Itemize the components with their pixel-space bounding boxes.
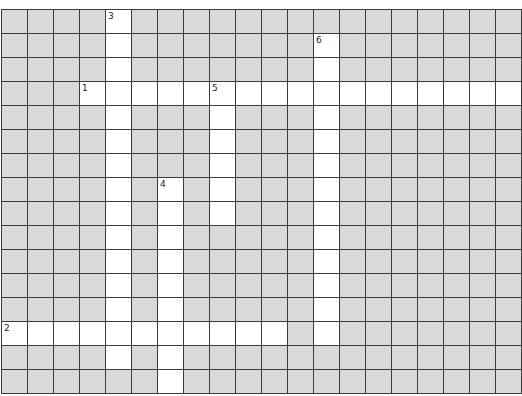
letter-input[interactable]: [314, 274, 339, 297]
open-cell[interactable]: [210, 106, 236, 130]
letter-input[interactable]: [106, 250, 131, 273]
open-cell[interactable]: [158, 82, 184, 106]
letter-input[interactable]: [106, 298, 131, 321]
letter-input[interactable]: [314, 322, 339, 345]
letter-input[interactable]: [314, 34, 339, 57]
letter-input[interactable]: [80, 322, 105, 345]
letter-input[interactable]: [158, 298, 183, 321]
open-cell[interactable]: 6: [314, 34, 340, 58]
letter-input[interactable]: [158, 274, 183, 297]
letter-input[interactable]: [158, 370, 183, 393]
open-cell[interactable]: 3: [106, 10, 132, 34]
open-cell[interactable]: [262, 82, 288, 106]
open-cell[interactable]: [210, 202, 236, 226]
open-cell[interactable]: [314, 106, 340, 130]
letter-input[interactable]: [132, 322, 157, 345]
open-cell[interactable]: [158, 226, 184, 250]
open-cell[interactable]: 4: [158, 178, 184, 202]
letter-input[interactable]: [470, 82, 495, 105]
letter-input[interactable]: [314, 250, 339, 273]
open-cell[interactable]: [340, 82, 366, 106]
open-cell[interactable]: [132, 322, 158, 346]
open-cell[interactable]: [496, 82, 522, 106]
letter-input[interactable]: [314, 154, 339, 177]
open-cell[interactable]: [444, 82, 470, 106]
open-cell[interactable]: [236, 322, 262, 346]
letter-input[interactable]: [106, 58, 131, 81]
open-cell[interactable]: [132, 82, 158, 106]
letter-input[interactable]: [314, 178, 339, 201]
letter-input[interactable]: [262, 322, 287, 345]
open-cell[interactable]: [314, 298, 340, 322]
letter-input[interactable]: [288, 82, 313, 105]
letter-input[interactable]: [366, 82, 391, 105]
open-cell[interactable]: [106, 130, 132, 154]
open-cell[interactable]: [470, 82, 496, 106]
open-cell[interactable]: 1: [80, 82, 106, 106]
open-cell[interactable]: [106, 274, 132, 298]
letter-input[interactable]: [54, 322, 79, 345]
open-cell[interactable]: [158, 346, 184, 370]
letter-input[interactable]: [80, 82, 105, 105]
letter-input[interactable]: [28, 322, 53, 345]
open-cell[interactable]: [418, 82, 444, 106]
letter-input[interactable]: [210, 322, 235, 345]
open-cell[interactable]: [314, 178, 340, 202]
open-cell[interactable]: [106, 154, 132, 178]
open-cell[interactable]: [314, 202, 340, 226]
letter-input[interactable]: [340, 82, 365, 105]
open-cell[interactable]: [106, 58, 132, 82]
letter-input[interactable]: [314, 226, 339, 249]
letter-input[interactable]: [106, 106, 131, 129]
open-cell[interactable]: 2: [2, 322, 28, 346]
open-cell[interactable]: [210, 130, 236, 154]
open-cell[interactable]: [158, 250, 184, 274]
letter-input[interactable]: [158, 82, 183, 105]
open-cell[interactable]: [106, 298, 132, 322]
letter-input[interactable]: [236, 322, 261, 345]
open-cell[interactable]: [184, 82, 210, 106]
open-cell[interactable]: [210, 154, 236, 178]
letter-input[interactable]: [158, 226, 183, 249]
open-cell[interactable]: [314, 250, 340, 274]
letter-input[interactable]: [418, 82, 443, 105]
letter-input[interactable]: [184, 322, 209, 345]
open-cell[interactable]: [106, 106, 132, 130]
letter-input[interactable]: [132, 82, 157, 105]
open-cell[interactable]: [366, 82, 392, 106]
letter-input[interactable]: [106, 154, 131, 177]
open-cell[interactable]: [158, 322, 184, 346]
letter-input[interactable]: [158, 250, 183, 273]
letter-input[interactable]: [496, 82, 521, 105]
letter-input[interactable]: [444, 82, 469, 105]
letter-input[interactable]: [158, 322, 183, 345]
letter-input[interactable]: [106, 130, 131, 153]
letter-input[interactable]: [314, 58, 339, 81]
open-cell[interactable]: [314, 226, 340, 250]
open-cell[interactable]: [106, 34, 132, 58]
open-cell[interactable]: [314, 82, 340, 106]
open-cell[interactable]: [392, 82, 418, 106]
letter-input[interactable]: [210, 178, 235, 201]
open-cell[interactable]: [106, 322, 132, 346]
open-cell[interactable]: [210, 178, 236, 202]
open-cell[interactable]: [106, 226, 132, 250]
letter-input[interactable]: [106, 226, 131, 249]
open-cell[interactable]: [106, 82, 132, 106]
open-cell[interactable]: [184, 322, 210, 346]
letter-input[interactable]: [106, 346, 131, 369]
letter-input[interactable]: [314, 202, 339, 225]
letter-input[interactable]: [210, 106, 235, 129]
letter-input[interactable]: [106, 274, 131, 297]
open-cell[interactable]: [158, 202, 184, 226]
letter-input[interactable]: [314, 82, 339, 105]
letter-input[interactable]: [106, 82, 131, 105]
open-cell[interactable]: [28, 322, 54, 346]
open-cell[interactable]: [314, 322, 340, 346]
letter-input[interactable]: [210, 202, 235, 225]
open-cell[interactable]: [314, 154, 340, 178]
letter-input[interactable]: [2, 322, 27, 345]
open-cell[interactable]: [158, 274, 184, 298]
open-cell[interactable]: [314, 274, 340, 298]
letter-input[interactable]: [314, 106, 339, 129]
